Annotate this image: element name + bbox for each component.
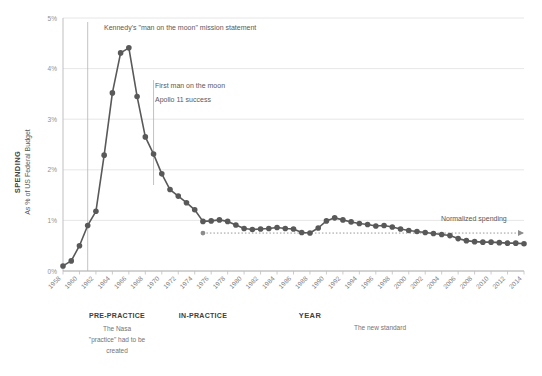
annotation-vlines: [88, 22, 154, 271]
series-point: [340, 217, 346, 223]
x-tick-label: 1972: [162, 274, 177, 289]
x-tick-label: 2004: [425, 274, 440, 289]
x-tick-label: 1962: [79, 274, 94, 289]
normalized-spending-label: Normalized spending: [441, 215, 507, 223]
series-point: [241, 226, 247, 232]
series-point: [447, 233, 453, 239]
series-point: [348, 219, 354, 225]
x-tick-label: 2012: [491, 274, 506, 289]
x-tick-label: 1988: [293, 274, 308, 289]
series-point: [431, 231, 437, 237]
spending-chart: 0%1%2%3%4%5% 195819601962196419661968197…: [0, 0, 542, 376]
series-point: [134, 94, 140, 100]
x-tick-label: 1966: [112, 274, 127, 289]
series-point: [217, 217, 223, 223]
series-point: [126, 45, 132, 51]
series-point: [373, 223, 379, 229]
series-point: [60, 263, 66, 269]
x-tick-labels: 1958196019621964196619681970197219741976…: [47, 274, 523, 289]
series-point: [521, 241, 527, 247]
series-point: [274, 225, 280, 231]
x-tick-label: 1958: [47, 274, 62, 289]
x-tick-label: 1960: [63, 274, 78, 289]
series-point: [282, 226, 288, 232]
series-point: [93, 208, 99, 214]
series-point: [357, 221, 363, 227]
data-line: [63, 48, 524, 266]
gridlines: [63, 18, 524, 220]
phase-label-in-practice: IN-PRACTICE: [179, 312, 227, 319]
series-point: [291, 226, 297, 232]
phase-pre-practice-line3: created: [106, 347, 128, 354]
y-tick-label: 0%: [48, 268, 58, 275]
series-point: [200, 219, 206, 225]
x-tick-label: 2000: [392, 274, 407, 289]
series-point: [324, 218, 330, 224]
y-tick-labels: 0%1%2%3%4%5%: [48, 15, 58, 275]
x-tick-label: 1992: [326, 274, 341, 289]
series-point: [472, 239, 478, 245]
x-tick-label: 1994: [343, 274, 358, 289]
y-tick-label: 2%: [48, 166, 58, 173]
series-point: [406, 228, 412, 234]
y-tick-label: 3%: [48, 116, 58, 123]
x-tick-label: 1980: [228, 274, 243, 289]
x-tick-label: 1984: [261, 274, 276, 289]
x-tick-label: 2014: [508, 274, 523, 289]
x-tick-label: 2010: [475, 274, 490, 289]
annotation-kennedy: Kennedy's "man on the moon" mission stat…: [104, 24, 256, 32]
x-tick-label: 1968: [129, 274, 144, 289]
reference-arrow: [518, 230, 524, 236]
x-tick-label: 1990: [310, 274, 325, 289]
series-point: [68, 258, 74, 264]
x-tick-label: 2006: [442, 274, 457, 289]
x-tick-label: 1974: [178, 274, 193, 289]
series-point: [258, 226, 264, 232]
phase-pre-practice-line1: The Nasa: [103, 325, 132, 332]
x-tick-label: 1976: [195, 274, 210, 289]
series-point: [422, 230, 428, 236]
y-tick-label: 1%: [48, 217, 58, 224]
series-point: [307, 230, 313, 236]
x-tick-label: 1986: [277, 274, 292, 289]
series-point: [497, 240, 503, 246]
series-point: [488, 239, 494, 245]
series-point: [167, 187, 173, 193]
x-tick-label: 1978: [211, 274, 226, 289]
series-point: [225, 219, 231, 225]
series-point: [414, 229, 420, 235]
phase-new-standard: The new standard: [354, 324, 406, 331]
series-point: [184, 200, 190, 206]
series-point: [233, 222, 239, 228]
series-point: [208, 218, 214, 224]
series-point: [101, 152, 107, 158]
x-tick-label: 1996: [359, 274, 374, 289]
reference-start-marker: [201, 231, 206, 236]
x-tick-label: 1998: [376, 274, 391, 289]
normalized-spending-line: [201, 230, 524, 236]
annotation-apollo-line1: First man on the moon: [155, 82, 225, 89]
series-point: [398, 226, 404, 232]
phase-pre-practice-line2: "practice" had to be: [89, 336, 146, 344]
series-point: [332, 215, 338, 221]
series-point: [118, 50, 124, 56]
series-point: [389, 224, 395, 230]
x-tick-label: 1970: [145, 274, 160, 289]
series-point: [192, 207, 198, 213]
series-point: [250, 227, 256, 233]
x-tick-label: 2008: [458, 274, 473, 289]
x-tick-label: 1964: [96, 274, 111, 289]
series-point: [455, 236, 461, 242]
series-point: [299, 230, 305, 236]
series-point: [85, 223, 91, 229]
chart-svg: 0%1%2%3%4%5% 195819601962196419661968197…: [0, 0, 542, 376]
series-point: [513, 240, 519, 246]
y-axis-title: SPENDING: [13, 151, 22, 193]
y-tick-label: 5%: [48, 15, 58, 22]
series-point: [505, 240, 511, 246]
series-point: [175, 193, 181, 199]
axis-lines: [63, 18, 524, 271]
series-point: [266, 226, 272, 232]
series-point: [381, 223, 387, 229]
annotation-apollo-line2: Apollo 11 success: [155, 96, 211, 104]
